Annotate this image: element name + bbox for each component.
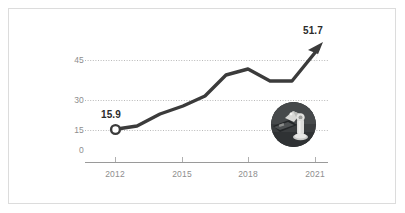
y-tick-label-45: 45	[62, 55, 84, 65]
chart-figure: 45 30 15 0 2012 2015 2018 2021 15.9 51.7	[0, 0, 405, 213]
annotation-start-value: 15.9	[101, 109, 121, 120]
y-tick-label-0: 0	[62, 145, 84, 155]
x-axis-ticks	[116, 157, 316, 162]
robotic-arm-icon	[271, 102, 316, 147]
x-tick-label-2015: 2015	[162, 169, 202, 179]
x-tick-label-2012: 2012	[95, 169, 135, 179]
x-tick-label-2018: 2018	[228, 169, 268, 179]
line-chart-plot	[0, 0, 405, 213]
x-tick-label-2021: 2021	[295, 169, 335, 179]
y-tick-label-15: 15	[62, 125, 84, 135]
y-tick-label-30: 30	[62, 95, 84, 105]
annotation-end-value: 51.7	[303, 25, 323, 36]
start-point-marker	[111, 125, 120, 134]
